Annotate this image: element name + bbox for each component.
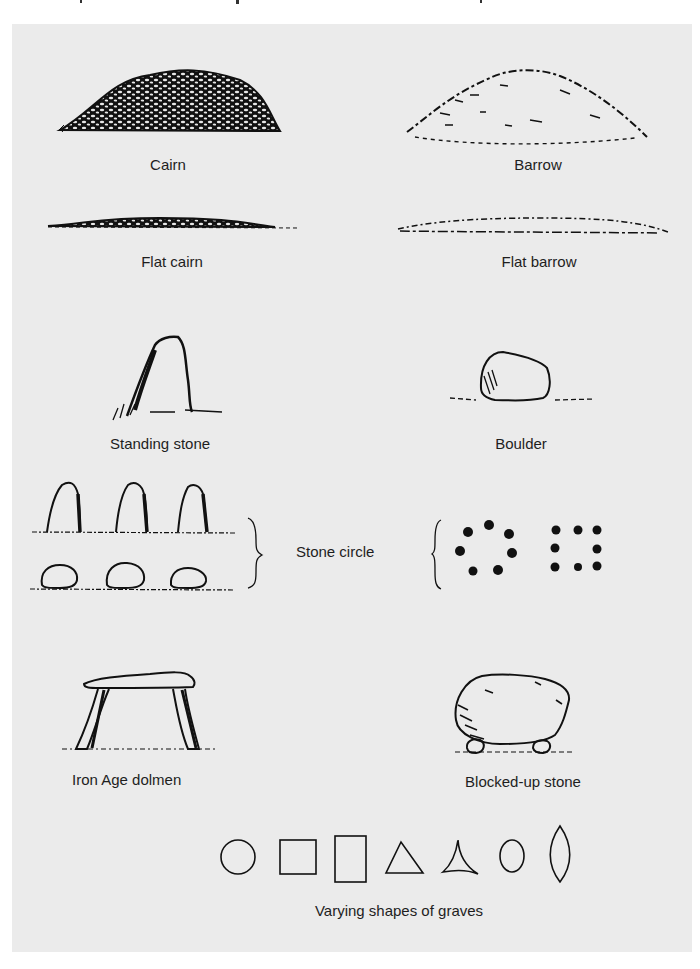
dolmen-illustration [62,672,215,749]
stone-row-standing [32,483,235,533]
cairn-illustration [58,70,280,132]
grave-square [280,840,316,874]
label-flat-barrow: Flat barrow [501,253,576,270]
flat-cairn-illustration [48,218,300,228]
brace-right-group [432,520,441,589]
grave-rectangle [335,836,366,882]
monument-illustrations [0,0,700,969]
label-cairn: Cairn [150,156,186,173]
label-flat-cairn: Flat cairn [141,253,203,270]
stone-row-boulders [30,563,235,590]
label-stone-circle: Stone circle [296,543,374,560]
stone-circle-plan-square [551,526,602,572]
grave-triangle [386,842,423,873]
grave-pointed-oval [550,826,570,882]
flat-barrow-illustration [398,218,668,233]
brace-left-group [248,518,262,588]
blocked-up-stone-illustration [455,675,575,753]
label-standing-stone: Standing stone [110,435,210,452]
label-blocked-up-stone: Blocked-up stone [465,773,581,790]
grave-circle [221,840,255,874]
standing-stone-illustration [113,337,222,420]
label-barrow: Barrow [514,156,562,173]
grave-shapes-row [221,826,570,882]
barrow-illustration [407,70,647,144]
label-grave-shapes: Varying shapes of graves [315,902,483,919]
label-boulder: Boulder [495,435,547,452]
stone-circle-plan-round [455,520,517,576]
grave-oval [500,840,524,872]
grave-concave-triangle [443,840,478,874]
boulder-illustration [450,352,595,401]
label-iron-age-dolmen: Iron Age dolmen [72,771,181,788]
